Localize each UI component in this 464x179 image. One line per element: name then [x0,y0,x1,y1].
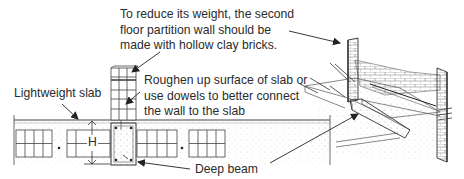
isometric-view [300,38,452,162]
partition-note-line-2: floor partition wall should be [120,23,294,39]
arrow-to-partition-right [289,31,340,43]
arrow-to-slab [62,104,78,119]
partition-note-line-3: made with hollow clay bricks. [120,38,294,54]
rebar-dot [181,147,184,150]
arrow-to-partition-left [132,52,160,72]
dowel-note-line-1: Roughen up surface of slab or [144,73,307,89]
dowel-note-line-2: use dowels to better connect [144,89,307,105]
height-marker-label: H [87,135,98,151]
rebar-dot [58,147,61,150]
partition-note-line-1: To reduce its weight, the second [120,7,294,23]
partition-wall-note: To reduce its weight, the second floor p… [120,7,294,54]
deep-beam-label: Deep beam [195,162,258,178]
dowel-note: Roughen up surface of slab or use dowels… [144,73,307,120]
lightweight-slab-label: Lightweight slab [14,86,101,102]
dowel-note-line-3: the wall to the slab [144,104,307,120]
hollow-blocks-right-1 [137,130,177,157]
hollow-blocks-right-2 [189,130,225,157]
hollow-blocks-left-1 [16,130,52,157]
partition-wall-section [111,66,138,120]
